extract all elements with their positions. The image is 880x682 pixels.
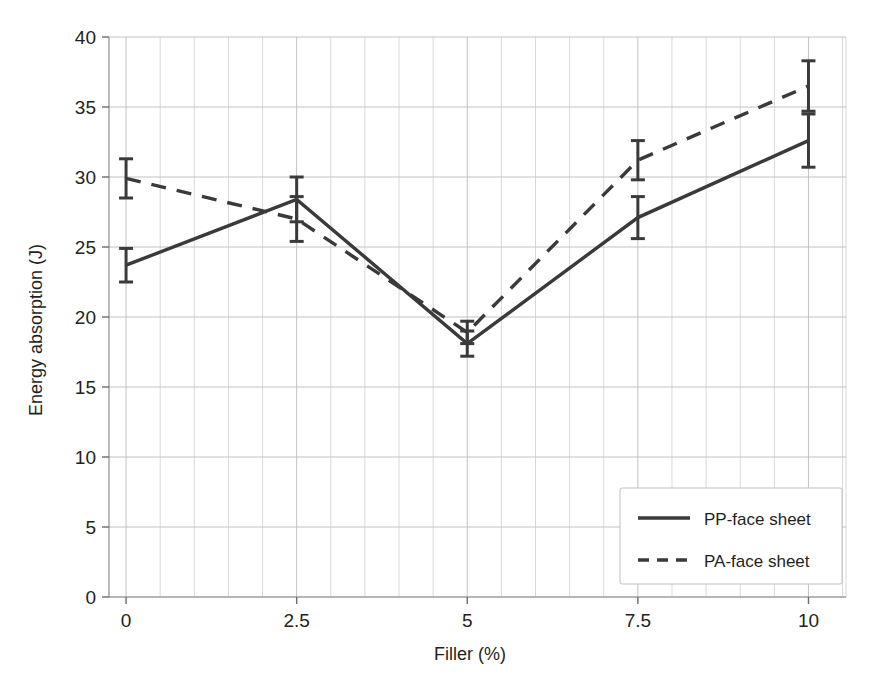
error-bar: [631, 141, 645, 180]
y-tick-label: 30: [75, 167, 96, 188]
legend-label: PP-face sheet: [704, 510, 811, 529]
y-tick-label: 25: [75, 237, 96, 258]
y-axis-tick-labels: 0510152025303540: [75, 27, 96, 608]
chart-container: 0510152025303540 02.557.510 Energy absor…: [0, 0, 880, 682]
y-tick-label: 40: [75, 27, 96, 48]
chart-legend: PP-face sheetPA-face sheet: [620, 488, 842, 584]
y-tick-label: 10: [75, 447, 96, 468]
y-tick-label: 5: [85, 517, 96, 538]
error-bar: [801, 61, 815, 111]
x-tick-label: 5: [462, 610, 473, 631]
error-bar: [631, 197, 645, 239]
y-tick-label: 0: [85, 587, 96, 608]
energy-absorption-line-chart: 0510152025303540 02.557.510 Energy absor…: [0, 0, 880, 682]
legend-label: PA-face sheet: [704, 552, 810, 571]
y-tick-label: 35: [75, 97, 96, 118]
x-tick-label: 10: [798, 610, 819, 631]
x-tick-label: 0: [121, 610, 132, 631]
x-axis-tick-labels: 02.557.510: [121, 610, 819, 631]
y-tick-label: 15: [75, 377, 96, 398]
x-tick-label: 2.5: [283, 610, 309, 631]
x-tick-label: 7.5: [625, 610, 651, 631]
y-tick-label: 20: [75, 307, 96, 328]
y-axis-title: Energy absorption (J): [26, 244, 46, 416]
x-axis-title: Filler (%): [434, 644, 506, 664]
error-bar: [119, 248, 133, 282]
error-bar: [801, 114, 815, 167]
